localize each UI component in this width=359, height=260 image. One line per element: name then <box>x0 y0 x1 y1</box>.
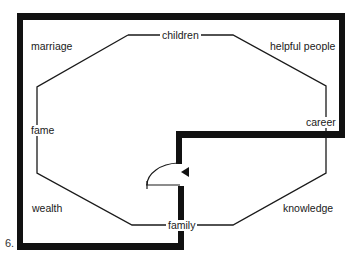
wall-notch-top <box>176 131 345 138</box>
figure-number: 6. <box>5 237 14 249</box>
area-label-marriage: marriage <box>31 41 72 52</box>
area-label-fame: fame <box>29 125 56 136</box>
bagua-floorplan-diagram: marriage children helpful people fame ca… <box>0 0 359 260</box>
area-label-knowledge: knowledge <box>283 203 333 214</box>
area-label-career: career <box>304 117 338 128</box>
area-label-children: children <box>160 30 201 41</box>
entry-arrow-icon <box>181 167 189 177</box>
wall-top <box>17 13 345 20</box>
area-label-helpful-people: helpful people <box>270 41 335 52</box>
wall-left <box>17 13 23 250</box>
wall-right <box>339 13 345 138</box>
area-label-family: family <box>166 220 197 231</box>
wall-bottom <box>17 243 184 250</box>
wall-notch-lower <box>178 186 184 250</box>
door-swing-icon <box>146 163 180 189</box>
wall-notch-upper <box>176 131 182 164</box>
area-label-wealth: wealth <box>32 203 62 214</box>
